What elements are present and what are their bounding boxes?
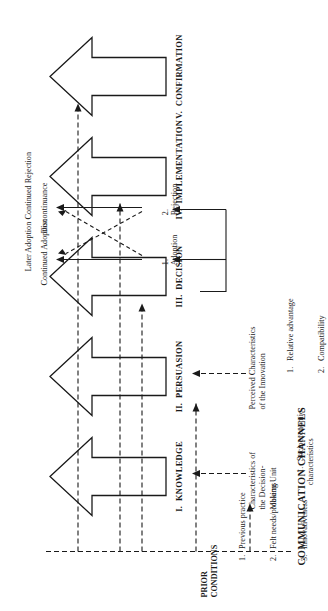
perceived-characteristics-heading: Perceived Characteristics of the Innovat… bbox=[248, 275, 269, 409]
diagram-canvas: I. KNOWLEDGE II. PERSUASION III. DECISIO… bbox=[0, 0, 328, 611]
list-number: 1. bbox=[296, 460, 306, 472]
branch-number: 1. bbox=[161, 258, 170, 264]
branch-number: 2. bbox=[161, 208, 170, 214]
block-arrow-icon bbox=[46, 333, 170, 419]
prior-conditions-heading: PRIOR CONDITIONS bbox=[200, 465, 221, 597]
decision-unit-list: 1.Socioeconomic characteristics 2.Person… bbox=[286, 393, 328, 509]
list-label: Socioeconomic characteristics bbox=[296, 410, 315, 497]
stage-label: II. PERSUASION bbox=[174, 333, 184, 419]
list-number: 3. bbox=[300, 548, 310, 560]
stage-label: V. CONFIRMATION bbox=[174, 33, 184, 119]
list-label: Previous practice bbox=[238, 492, 247, 549]
block-arrow-icon bbox=[46, 433, 170, 519]
branch-adoption: 1. Adoption bbox=[152, 234, 188, 281]
list-number: 2. bbox=[269, 548, 279, 560]
figure-page: I. KNOWLEDGE II. PERSUASION III. DECISIO… bbox=[0, 0, 328, 611]
outcome-discontinuance: Discontinuance bbox=[40, 182, 49, 233]
list-item: 2.Compatibility bbox=[307, 275, 328, 409]
branch-label: Adoption bbox=[170, 234, 179, 265]
list-label: Relative advantage bbox=[286, 298, 295, 361]
decision-unit-heading: Characteristics of the Decision- Making … bbox=[248, 393, 279, 509]
decision-unit-block: Characteristics of the Decision- Making … bbox=[248, 393, 328, 509]
stage-persuasion[interactable]: II. PERSUASION bbox=[46, 333, 170, 419]
list-number: 1. bbox=[238, 548, 248, 560]
branch-label: Rejection bbox=[170, 183, 179, 214]
rotation-frame: I. KNOWLEDGE II. PERSUASION III. DECISIO… bbox=[0, 0, 328, 611]
decision-fork bbox=[200, 209, 226, 291]
list-label: Compatibility bbox=[317, 315, 326, 361]
outcome-later-adoption: Later Adoption bbox=[24, 221, 33, 271]
branch-rejection: 2. Rejection bbox=[152, 183, 188, 231]
list-number: 2. bbox=[317, 360, 327, 372]
list-item: 1.Relative advantage bbox=[276, 275, 307, 409]
list-number: 1. bbox=[286, 360, 296, 372]
stage-knowledge[interactable]: I. KNOWLEDGE bbox=[46, 433, 170, 519]
outcome-continued-rejection: Continued Rejection bbox=[24, 151, 33, 219]
list-item: 1.Socioeconomic characteristics bbox=[286, 393, 327, 509]
perceived-characteristics-block: Perceived Characteristics of the Innovat… bbox=[248, 275, 328, 409]
stage-confirmation[interactable]: V. CONFIRMATION bbox=[46, 33, 170, 119]
block-arrow-icon bbox=[46, 33, 170, 119]
stage-label: I. KNOWLEDGE bbox=[174, 433, 184, 519]
perceived-characteristics-list: 1.Relative advantage 2.Compatibility 3.C… bbox=[276, 275, 328, 409]
